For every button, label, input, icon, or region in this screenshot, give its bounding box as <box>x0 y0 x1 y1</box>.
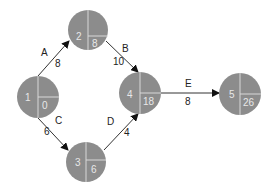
edge-e-activity-label: E <box>185 78 192 89</box>
edge-c-activity-label: C <box>55 115 62 126</box>
node-4[interactable]: 4 18 <box>119 72 161 114</box>
edge-d-duration-label: 4 <box>124 127 130 138</box>
edge-b-duration-label: 10 <box>113 56 125 67</box>
edge-a-activity-label: A <box>41 47 48 58</box>
node-1-value: 0 <box>42 100 48 111</box>
node-5-label: 5 <box>229 89 235 100</box>
edge-c-duration-label: 6 <box>44 126 50 137</box>
node-3[interactable]: 3 6 <box>66 142 106 182</box>
edge-b[interactable]: B 10 <box>106 41 138 72</box>
node-1[interactable]: 1 0 <box>17 76 59 118</box>
node-2-value: 8 <box>92 38 98 49</box>
edge-d-activity-label: D <box>107 116 114 127</box>
node-3-label: 3 <box>75 157 81 168</box>
node-4-label: 4 <box>127 89 133 100</box>
edge-c-line <box>38 118 68 150</box>
edge-d[interactable]: D 4 <box>104 114 138 150</box>
edge-e[interactable]: E 8 <box>161 78 219 107</box>
edge-a-duration-label: 8 <box>55 58 61 69</box>
edge-b-activity-label: B <box>122 43 129 54</box>
edge-a[interactable]: A 8 <box>38 41 69 76</box>
nodes: 1 0 2 8 3 6 4 18 <box>17 10 261 182</box>
edge-c[interactable]: C 6 <box>38 115 68 150</box>
node-2[interactable]: 2 8 <box>68 10 108 50</box>
node-3-value: 6 <box>91 164 97 175</box>
node-1-label: 1 <box>25 92 31 103</box>
node-5-value: 26 <box>243 97 255 108</box>
node-2-label: 2 <box>76 31 82 42</box>
node-5[interactable]: 5 26 <box>219 73 261 115</box>
edge-e-duration-label: 8 <box>185 96 191 107</box>
node-4-value: 18 <box>143 96 155 107</box>
network-diagram: A 8 B 10 C 6 D 4 E 8 <box>0 0 276 186</box>
